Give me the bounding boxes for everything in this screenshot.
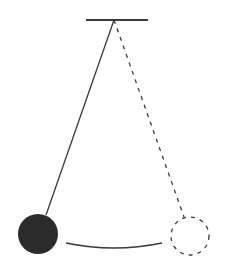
bob-filled bbox=[18, 214, 58, 254]
string-solid bbox=[46, 20, 114, 215]
swing-arc bbox=[66, 243, 162, 248]
bob-dashed bbox=[171, 217, 209, 255]
pendulum-diagram bbox=[0, 0, 243, 280]
string-dashed bbox=[114, 20, 184, 217]
